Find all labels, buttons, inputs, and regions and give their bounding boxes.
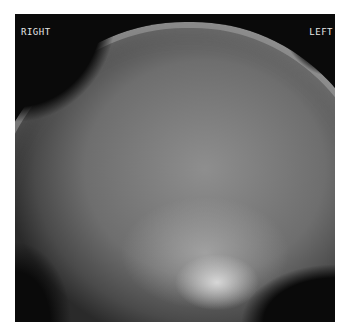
background-shadow: [225, 252, 335, 322]
orientation-label-left: LEFT: [309, 27, 333, 37]
xray-image: RIGHT LEFT: [15, 14, 335, 322]
background-shadow: [275, 14, 335, 84]
background-shadow: [15, 222, 85, 322]
orientation-label-right: RIGHT: [21, 27, 51, 37]
